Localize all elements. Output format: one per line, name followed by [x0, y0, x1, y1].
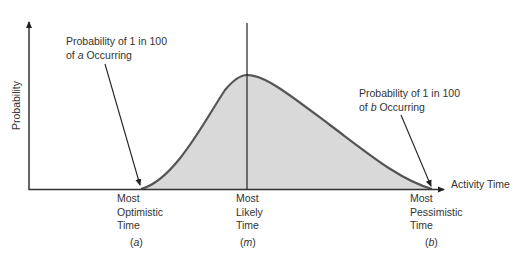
- symbol-b: (b): [425, 236, 438, 248]
- annotation-b-line2: of b Occurring: [359, 101, 460, 115]
- annotation-a: Probability of 1 in 100 of a Occurring: [66, 35, 167, 62]
- symbol-a: (a): [130, 236, 143, 248]
- label-m: MostLikelyTime: [236, 192, 263, 233]
- annotation-arrow-a: [105, 64, 140, 185]
- annotation-arrow-b: [401, 115, 431, 186]
- label-b: MostPessimisticTime: [410, 192, 463, 233]
- annotation-b-line1: Probability of 1 in 100: [359, 87, 460, 101]
- annotation-a-line2: of a Occurring: [66, 49, 167, 63]
- label-a: MostOptimisticTime: [117, 192, 163, 233]
- annotation-a-line1: Probability of 1 in 100: [66, 35, 167, 49]
- y-axis-label: Probability: [10, 81, 22, 130]
- symbol-m: (m): [240, 236, 256, 248]
- x-axis-label: Activity Time: [451, 178, 510, 192]
- annotation-b: Probability of 1 in 100 of b Occurring: [359, 87, 460, 114]
